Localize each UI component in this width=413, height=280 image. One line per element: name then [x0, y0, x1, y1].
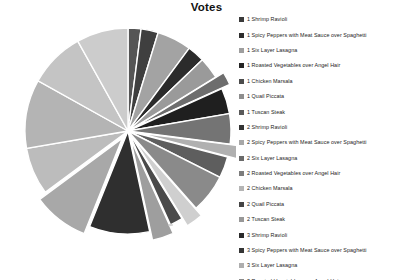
legend-item-label: 1 Chicken Marsala — [247, 78, 293, 85]
pie-slice-group — [25, 28, 236, 240]
legend-swatch-icon — [239, 217, 244, 222]
legend-item-label: 1 Roasted Vegetables over Angel Hair — [247, 62, 340, 69]
legend-swatch-icon — [239, 233, 244, 238]
legend-item-label: 1 Quail Piccata — [247, 93, 284, 100]
pie-svg — [8, 14, 236, 250]
legend-item-label: 2 Chicken Marsala — [247, 185, 293, 192]
legend-item: 2 Tuscan Steak — [237, 212, 413, 227]
legend-swatch-icon — [239, 171, 244, 176]
legend-item: 3 Spicy Peppers with Meat Sauce over Spa… — [237, 243, 413, 258]
legend-swatch-icon — [239, 48, 244, 53]
legend-item: 2 Shrimp Ravioli — [237, 120, 413, 135]
pie-chart-figure: Votes 1 Shrimp Ravioli1 Spicy Peppers wi… — [0, 0, 413, 280]
legend-item-label: 2 Six Layer Lasagna — [247, 155, 297, 162]
legend-item: 1 Spicy Peppers with Meat Sauce over Spa… — [237, 27, 413, 42]
legend-item: 1 Six Layer Lasagna — [237, 43, 413, 58]
legend-swatch-icon — [239, 94, 244, 99]
legend-item-label: 1 Tuscan Steak — [247, 109, 285, 116]
legend-item: 2 Chicken Marsala — [237, 181, 413, 196]
legend-item: 1 Chicken Marsala — [237, 74, 413, 89]
legend-item: 1 Roasted Vegetables over Angel Hair — [237, 58, 413, 73]
legend-swatch-icon — [239, 110, 244, 115]
legend-item-label: 2 Tuscan Steak — [247, 216, 285, 223]
legend-item-label: 2 Spicy Peppers with Meat Sauce over Spa… — [247, 139, 367, 146]
chart-legend: 1 Shrimp Ravioli1 Spicy Peppers with Mea… — [237, 12, 413, 280]
legend-swatch-icon — [239, 17, 244, 22]
legend-item-label: 2 Quail Piccata — [247, 201, 284, 208]
legend-item: 3 Six Layer Lasagna — [237, 258, 413, 273]
legend-swatch-icon — [239, 63, 244, 68]
legend-swatch-icon — [239, 79, 244, 84]
legend-item: 3 Shrimp Ravioli — [237, 227, 413, 242]
legend-item: 1 Shrimp Ravioli — [237, 12, 413, 27]
legend-item-label: 3 Six Layer Lasagna — [247, 262, 297, 269]
legend-item-label: 2 Roasted Vegetables over Angel Hair — [247, 170, 340, 177]
legend-item: 1 Quail Piccata — [237, 89, 413, 104]
legend-item: 2 Spicy Peppers with Meat Sauce over Spa… — [237, 135, 413, 150]
legend-swatch-icon — [239, 125, 244, 130]
legend-swatch-icon — [239, 33, 244, 38]
legend-item: 3 Roasted Vegetables over Angel Hair — [237, 274, 413, 280]
smudge-mark-icon — [168, 224, 173, 226]
legend-item: 2 Six Layer Lasagna — [237, 151, 413, 166]
legend-swatch-icon — [239, 186, 244, 191]
legend-item-label: 1 Six Layer Lasagna — [247, 47, 297, 54]
legend-item: 2 Quail Piccata — [237, 197, 413, 212]
pie-plot-area — [8, 14, 236, 250]
legend-item: 1 Tuscan Steak — [237, 104, 413, 119]
legend-item-label: 3 Shrimp Ravioli — [247, 232, 287, 239]
legend-item-label: 1 Spicy Peppers with Meat Sauce over Spa… — [247, 32, 367, 39]
legend-item-label: 1 Shrimp Ravioli — [247, 16, 287, 23]
legend-swatch-icon — [239, 248, 244, 253]
legend-item: 2 Roasted Vegetables over Angel Hair — [237, 166, 413, 181]
legend-item-label: 3 Spicy Peppers with Meat Sauce over Spa… — [247, 247, 367, 254]
legend-item-label: 2 Shrimp Ravioli — [247, 124, 287, 131]
legend-swatch-icon — [239, 202, 244, 207]
legend-swatch-icon — [239, 263, 244, 268]
legend-swatch-icon — [239, 156, 244, 161]
legend-swatch-icon — [239, 140, 244, 145]
